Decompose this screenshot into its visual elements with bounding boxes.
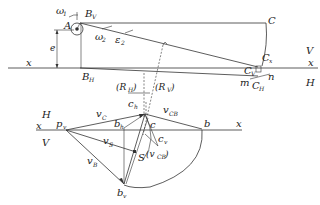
svg-text:v: v (63, 123, 67, 130)
label-n: n (268, 71, 274, 82)
label-x-lower-right: x (236, 118, 242, 129)
svg-text:1: 1 (63, 10, 67, 17)
label-h-plane: H (305, 77, 315, 88)
label-v-plane: V (306, 45, 315, 56)
label-eps2: ε (115, 34, 120, 45)
svg-text:V: V (251, 70, 256, 77)
svg-text:v: v (164, 138, 168, 145)
kinematic-diagram: ω 1 A B V e ω 2 ε 2 C C x C V m n C H B … (0, 0, 320, 205)
eps2-arrow-icon (125, 30, 133, 33)
svg-text:h: h (134, 103, 138, 110)
svg-text:H: H (88, 76, 95, 83)
svg-text:S: S (109, 141, 113, 148)
vector-vs (66, 130, 136, 152)
svg-text:): ) (170, 82, 175, 92)
diagram-canvas: ω 1 A B V e ω 2 ε 2 C C x C V m n C H B … (0, 0, 320, 205)
omega2-arrow-icon (102, 26, 112, 29)
svg-text:2: 2 (101, 36, 106, 43)
label-pv: p (56, 118, 63, 129)
svg-text:2: 2 (120, 39, 125, 46)
label-s: S (138, 152, 145, 163)
label-e: e (50, 43, 55, 53)
svg-text:H: H (258, 85, 265, 92)
svg-text:): ) (164, 149, 169, 159)
label-h-lower: H (41, 109, 51, 120)
svg-text:V: V (92, 13, 97, 20)
svg-text:CB: CB (169, 110, 179, 117)
vector-vb (66, 130, 124, 184)
label-x-lower-left: x (36, 120, 42, 131)
s-point (133, 150, 136, 153)
svg-text:C: C (102, 114, 107, 121)
label-m: m (240, 77, 249, 88)
label-c: C (268, 15, 276, 26)
link-bv-cv (80, 23, 258, 67)
label-x-upper-right: x (308, 57, 314, 68)
svg-text:B: B (92, 161, 98, 168)
label-v-lower: V (42, 137, 51, 148)
label-vcb-paren: (v (146, 149, 155, 159)
link-bh-ch (80, 68, 258, 76)
svg-text:x: x (269, 57, 273, 64)
svg-text:): ) (132, 82, 137, 92)
label-b: b (204, 118, 210, 129)
svg-text:v: v (123, 192, 127, 199)
label-c-lower: c (150, 119, 156, 130)
label-x-upper-left: x (26, 57, 32, 68)
line-c-cv (145, 134, 158, 146)
svg-text:h: h (120, 123, 124, 130)
label-rh: (R (116, 82, 127, 92)
label-rv: (R (155, 82, 166, 92)
label-a: A (63, 20, 71, 31)
omega1-arrow-icon (69, 15, 78, 17)
